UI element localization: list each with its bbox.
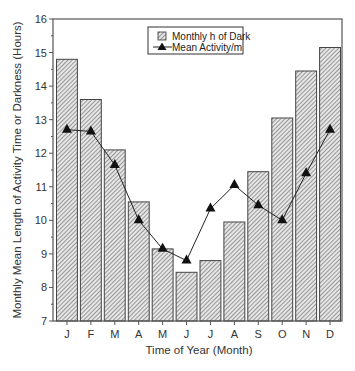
y-axis-title: Monthly Mean Length of Activity Time or … bbox=[11, 21, 23, 318]
triangle-marker-icon bbox=[229, 179, 239, 188]
x-tick-label: A bbox=[135, 328, 143, 340]
y-tick-label: 15 bbox=[35, 47, 47, 59]
bar bbox=[296, 71, 317, 321]
y-tick-label: 12 bbox=[35, 147, 47, 159]
bar bbox=[57, 59, 78, 321]
line-series-mean-activity bbox=[62, 124, 335, 264]
legend-label-bar: Monthly h of Dark bbox=[172, 31, 251, 42]
y-tick-label: 8 bbox=[41, 281, 47, 293]
x-tick-label: J bbox=[64, 328, 70, 340]
hatched-swatch-icon bbox=[158, 32, 166, 40]
x-tick-label: J bbox=[208, 328, 214, 340]
y-tick-label: 7 bbox=[41, 315, 47, 327]
bar bbox=[152, 249, 173, 321]
x-tick-label: O bbox=[278, 328, 287, 340]
legend: Monthly h of Dark Mean Activity/m bbox=[148, 27, 251, 54]
x-tick-label: M bbox=[158, 328, 167, 340]
x-tick-label: N bbox=[302, 328, 310, 340]
triangle-marker-icon bbox=[205, 203, 215, 212]
y-tick-label: 10 bbox=[35, 214, 47, 226]
bar bbox=[200, 261, 221, 321]
y-tick-label: 16 bbox=[35, 13, 47, 25]
x-axis-ticks: JFMAMJJASOND bbox=[64, 321, 334, 340]
x-tick-label: M bbox=[110, 328, 119, 340]
y-tick-label: 14 bbox=[35, 80, 47, 92]
y-tick-label: 13 bbox=[35, 114, 47, 126]
y-tick-label: 9 bbox=[41, 248, 47, 260]
bar bbox=[320, 48, 341, 322]
chart-canvas: 78910111213141516 JFMAMJJASOND Monthly M… bbox=[0, 0, 355, 371]
x-tick-label: D bbox=[326, 328, 334, 340]
bar-series-monthly-dark bbox=[57, 48, 341, 322]
x-tick-label: A bbox=[231, 328, 239, 340]
bar bbox=[248, 172, 269, 321]
x-axis-title: Time of Year (Month) bbox=[146, 344, 253, 356]
bar bbox=[224, 222, 245, 321]
bar bbox=[104, 150, 125, 321]
bar bbox=[176, 272, 197, 321]
y-tick-label: 11 bbox=[36, 181, 47, 193]
x-tick-label: F bbox=[88, 328, 95, 340]
legend-label-line: Mean Activity/m bbox=[172, 42, 242, 53]
y-axis-ticks: 78910111213141516 bbox=[35, 13, 53, 327]
x-tick-label: J bbox=[184, 328, 190, 340]
x-tick-label: S bbox=[255, 328, 262, 340]
